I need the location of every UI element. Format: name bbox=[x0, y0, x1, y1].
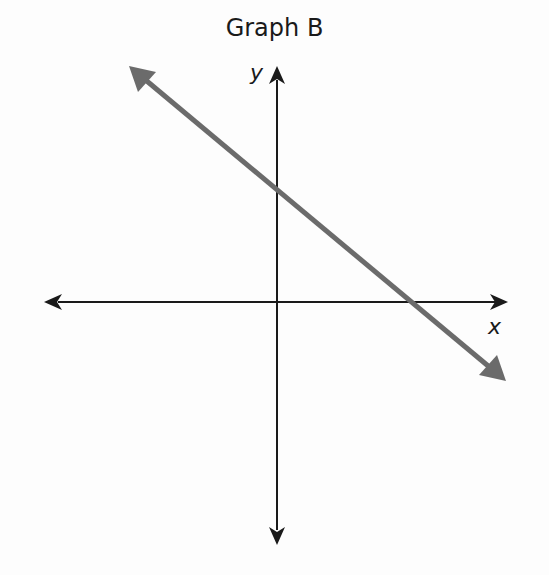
x-axis-label: x bbox=[487, 314, 502, 339]
graph-canvas: y x bbox=[0, 0, 549, 575]
y-axis bbox=[269, 66, 285, 545]
y-axis-label: y bbox=[249, 60, 264, 85]
graph-line bbox=[129, 66, 506, 381]
